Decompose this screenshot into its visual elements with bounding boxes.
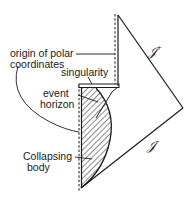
svg-text:𝒥: 𝒥 [146, 138, 161, 153]
label-origin-line2: coordinates [10, 58, 64, 70]
penrose-diagram: origin of polar coordinates singularity … [0, 0, 194, 198]
scri-plus-boundary [118, 15, 183, 108]
label-scri-minus: 𝒥 - [146, 137, 161, 153]
label-singularity: singularity [61, 66, 109, 78]
label-horizon: horizon [40, 98, 75, 110]
singularity-bar [79, 84, 119, 88]
label-body: body [27, 161, 51, 173]
svg-text:+: + [157, 43, 162, 52]
collapsing-body-region [81, 88, 111, 188]
label-scri-plus: 𝒥 + [147, 43, 162, 59]
svg-text:-: - [156, 137, 159, 146]
singularity-leader-line [88, 77, 92, 84]
